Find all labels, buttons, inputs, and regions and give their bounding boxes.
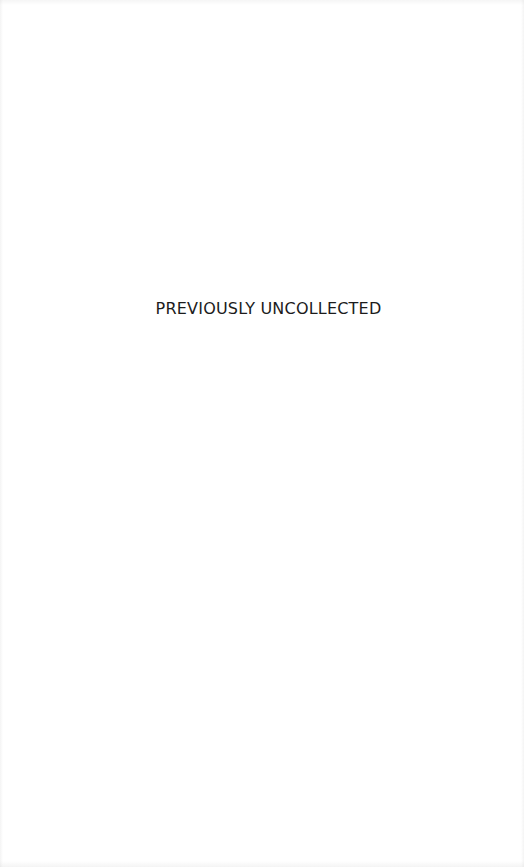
book-page: PREVIOUSLY UNCOLLECTED	[0, 0, 524, 867]
scan-edge-bottom	[0, 861, 524, 867]
scan-edge-left	[0, 0, 3, 867]
scan-edge-top	[0, 0, 524, 5]
section-title: PREVIOUSLY UNCOLLECTED	[0, 299, 524, 319]
